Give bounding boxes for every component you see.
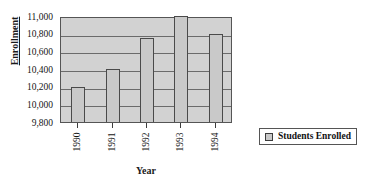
y-axis-tick-label: 10,200 — [8, 82, 53, 93]
gridline — [61, 36, 231, 37]
bar — [106, 69, 120, 122]
bar — [71, 87, 85, 122]
x-axis-tick-label: 1993 — [174, 125, 186, 159]
x-axis-tick-label: 1990 — [71, 125, 83, 159]
x-axis-tick-labels: 19901991199219931994 — [60, 128, 232, 162]
bar-chart: Enrollment 11,00010,80010,60010,40010,20… — [0, 0, 368, 194]
y-axis-tick-label: 11,000 — [8, 12, 53, 23]
y-axis-tick-labels: 11,00010,80010,60010,40010,20010,0009,80… — [8, 11, 53, 123]
y-axis-tick-label: 9,800 — [8, 118, 53, 129]
legend-label: Students Enrolled — [278, 131, 351, 142]
x-axis-tick-label: 1991 — [106, 125, 118, 159]
chart-legend: Students Enrolled — [259, 128, 357, 145]
plot-area — [60, 17, 232, 123]
y-axis-tick-label: 10,400 — [8, 65, 53, 76]
y-axis-tick-label: 10,600 — [8, 47, 53, 58]
x-axis-tick-label: 1994 — [209, 125, 221, 159]
legend-swatch-icon — [265, 133, 273, 141]
bar — [140, 38, 154, 122]
x-axis-tick-label: 1992 — [140, 125, 152, 159]
x-axis-title: Year — [60, 165, 232, 176]
bar — [174, 16, 188, 122]
y-axis-tick-label: 10,000 — [8, 100, 53, 111]
y-axis-tick-label: 10,800 — [8, 29, 53, 40]
bar — [209, 34, 223, 122]
